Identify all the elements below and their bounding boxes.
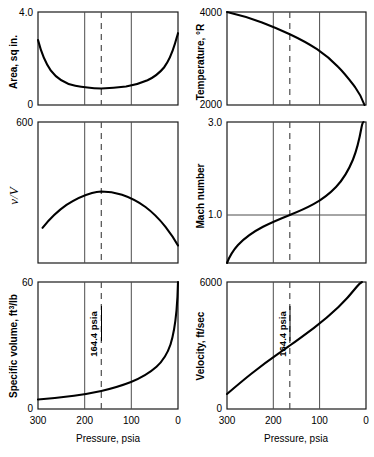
area-ytick-top: 4.0 <box>19 7 33 18</box>
xtick-left-100: 100 <box>123 415 140 426</box>
xtick-left-200: 200 <box>76 415 93 426</box>
vv-curve <box>43 192 179 246</box>
velocity-curve <box>227 282 362 394</box>
vv-ytick-top: 600 <box>16 117 33 128</box>
temperature-curve <box>227 12 365 105</box>
area-ytick-bottom: 0 <box>27 99 33 110</box>
spvol-ytick-bottom: 0 <box>27 403 33 414</box>
spvol-axis-label-main: Specific volume, ft <box>8 309 19 398</box>
nozzle-flow-properties-figure: 4.0 0 Area, sq in. 4000 2000 Temperature… <box>0 0 374 457</box>
mach-plot-frame <box>227 122 366 263</box>
panel-specific-volume-ratio: 600 v/V <box>6 117 178 263</box>
velocity-axis-label: Velocity, ft/sec <box>195 311 206 380</box>
velocity-ytick-bottom: 0 <box>216 403 222 414</box>
area-plot-frame <box>38 12 178 105</box>
spvol-axis-label: Specific volume, ft3/lb <box>8 294 20 398</box>
velocity-ytick-top: 6000 <box>200 277 223 288</box>
spvol-axis-label-tail: /lb <box>8 294 19 306</box>
panel-velocity: 6000 0 Velocity, ft/sec 164.4 psia <box>195 277 366 414</box>
area-axis-label: Area, sq in. <box>8 35 19 89</box>
mach-ytick-mid: 1.0 <box>208 209 222 220</box>
area-curve <box>38 33 178 88</box>
panel-mach-number: 3.0 1.0 Mach number <box>195 117 366 263</box>
temperature-axis-label: Temperature, °R <box>195 23 206 100</box>
mach-axis-label: Mach number <box>195 163 206 228</box>
spvol-ytick-top: 60 <box>22 277 34 288</box>
temperature-plot-frame <box>227 12 366 105</box>
panel-specific-volume: 60 0 Specific volume, ft3/lb 164.4 psia <box>8 277 179 414</box>
panel-temperature: 4000 2000 Temperature, °R <box>195 7 366 110</box>
mach-curve <box>227 122 364 263</box>
panel-area: 4.0 0 Area, sq in. <box>8 7 178 110</box>
xaxis-left: 300 200 100 0 Pressure, psia <box>30 415 182 444</box>
spvol-throat-annotation: 164.4 psia <box>88 311 99 357</box>
figure-svg: 4.0 0 Area, sq in. 4000 2000 Temperature… <box>0 0 374 457</box>
spvol-curve <box>38 282 178 400</box>
xtick-left-300: 300 <box>30 415 47 426</box>
vv-axis-label: v/V <box>6 185 21 204</box>
xtick-left-0: 0 <box>175 415 181 426</box>
xaxis-left-label: Pressure, psia <box>76 433 140 444</box>
xtick-right-200: 200 <box>265 415 282 426</box>
xtick-right-0: 0 <box>363 415 369 426</box>
temperature-ytick-top: 4000 <box>200 7 223 18</box>
xtick-right-300: 300 <box>219 415 236 426</box>
xtick-right-100: 100 <box>311 415 328 426</box>
xaxis-right-label: Pressure, psia <box>264 433 328 444</box>
mach-ytick-top: 3.0 <box>208 117 222 128</box>
xaxis-right: 300 200 100 0 Pressure, psia <box>219 415 370 444</box>
